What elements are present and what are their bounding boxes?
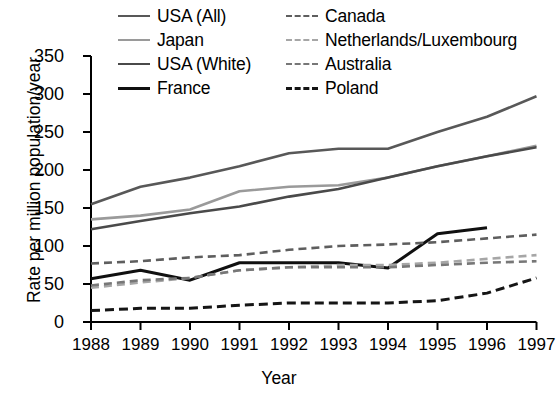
legend-label-usa-white: USA (White)	[157, 55, 251, 73]
legend-label-japan: Japan	[157, 31, 204, 49]
legend-swatch-japan	[118, 39, 150, 41]
x-axis-tick-labels: 1988198919901991199219931994199519961997	[0, 335, 558, 361]
series-line-usa-all	[91, 96, 537, 204]
legend-label-france: France	[157, 79, 210, 97]
legend-swatch-canada	[286, 15, 318, 17]
legend-entry-canada: Canada	[286, 4, 558, 28]
series-line-france	[91, 228, 487, 280]
legend-swatch-france	[118, 87, 150, 90]
legend-label-canada: Canada	[325, 7, 385, 25]
legend-entry-france: France	[118, 76, 286, 100]
legend-swatch-australia	[286, 63, 318, 65]
y-axis-title: Rate per million population/year	[24, 30, 44, 330]
legend-entry-usa-all: USA (All)	[118, 4, 286, 28]
x-tick-label-1996: 1996	[468, 335, 506, 355]
legend-label-australia: Australia	[325, 55, 391, 73]
legend-entry-poland: Poland	[286, 76, 558, 100]
x-tick-label-1995: 1995	[419, 335, 457, 355]
series-line-poland	[91, 278, 537, 311]
legend-swatch-usa-white	[118, 63, 150, 65]
x-tick-label-1988: 1988	[72, 335, 110, 355]
x-axis-title: Year	[0, 368, 558, 388]
legend-entry-japan: Japan	[118, 28, 286, 52]
legend-label-poland: Poland	[325, 79, 378, 97]
series-line-usa-white	[91, 147, 537, 229]
legend-swatch-netherlands-luxembourg	[286, 39, 318, 41]
x-tick-label-1994: 1994	[369, 335, 407, 355]
line-chart: USA (All)CanadaJapanNetherlands/Luxembou…	[0, 0, 558, 400]
legend-entry-usa-white: USA (White)	[118, 52, 286, 76]
legend-swatch-usa-all	[118, 15, 150, 17]
x-tick-label-1997: 1997	[518, 335, 556, 355]
x-tick-label-1992: 1992	[270, 335, 308, 355]
legend-label-usa-all: USA (All)	[157, 7, 226, 25]
chart-legend: USA (All)CanadaJapanNetherlands/Luxembou…	[118, 4, 558, 100]
legend-label-netherlands-luxembourg: Netherlands/Luxembourg	[325, 31, 517, 49]
legend-swatch-poland	[286, 87, 318, 90]
x-tick-label-1989: 1989	[122, 335, 160, 355]
legend-entry-netherlands-luxembourg: Netherlands/Luxembourg	[286, 28, 558, 52]
x-tick-label-1991: 1991	[221, 335, 259, 355]
x-tick-label-1990: 1990	[171, 335, 209, 355]
legend-entry-australia: Australia	[286, 52, 558, 76]
x-tick-label-1993: 1993	[320, 335, 358, 355]
